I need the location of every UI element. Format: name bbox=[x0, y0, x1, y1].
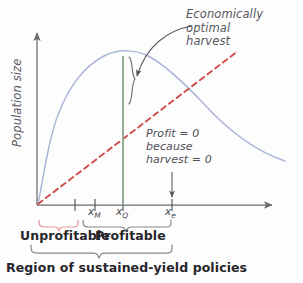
bracket-label-region: Region of sustained-yield policies bbox=[6, 261, 247, 276]
x-tick-label-xe: xe bbox=[165, 205, 176, 220]
axis-lines bbox=[37, 33, 272, 205]
x-tick-label-xe-sub: e bbox=[171, 211, 176, 220]
annotation-profit-zero: Profit = 0 because harvest = 0 bbox=[146, 128, 212, 167]
x-tick-label-xq: xQ bbox=[116, 205, 128, 220]
y-axis-label: Population size bbox=[11, 55, 25, 151]
optimal-harvest-leader-arrow bbox=[137, 26, 192, 76]
figure-canvas: Population size Economically optimal har… bbox=[0, 0, 303, 283]
yield-gap-brace bbox=[129, 57, 135, 104]
x-tick-label-xq-sub: Q bbox=[122, 211, 128, 220]
bracket-label-profitable: Profitable bbox=[95, 229, 166, 244]
x-tick-label-xm-sub: M bbox=[94, 211, 100, 220]
sustained-yield-region-brace bbox=[31, 245, 172, 258]
annotation-economically-optimal-harvest: Economically optimal harvest bbox=[186, 8, 263, 49]
x-tick-label-xm: xM bbox=[88, 205, 101, 220]
